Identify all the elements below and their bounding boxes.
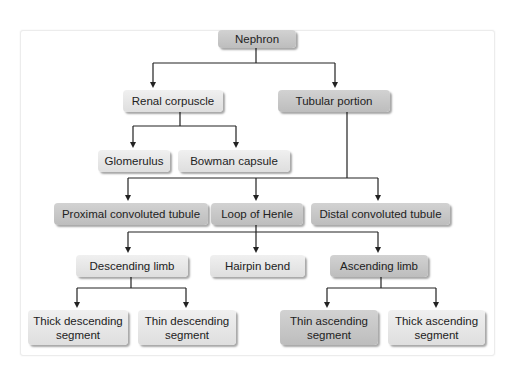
node-label: Proximal convoluted tubule bbox=[62, 207, 200, 221]
node-label: Renal corpuscle bbox=[132, 94, 214, 108]
node-label: Bowman capsule bbox=[190, 154, 278, 168]
node-label: Thick ascending segment bbox=[392, 314, 481, 342]
node-thin-descending-segment: Thin descending segment bbox=[138, 310, 236, 345]
node-thin-ascending-segment: Thin ascending segment bbox=[280, 310, 378, 345]
node-renal-corpuscle: Renal corpuscle bbox=[123, 90, 223, 112]
node-loop-of-henle: Loop of Henle bbox=[211, 203, 303, 225]
node-label: Descending limb bbox=[89, 259, 174, 273]
node-proximal-convoluted-tubule: Proximal convoluted tubule bbox=[54, 203, 208, 225]
node-label: Tubular portion bbox=[296, 94, 373, 108]
node-label: Thin ascending segment bbox=[284, 314, 374, 342]
node-thick-ascending-segment: Thick ascending segment bbox=[388, 310, 485, 345]
node-label: Glomerulus bbox=[105, 154, 164, 168]
node-label: Hairpin bend bbox=[225, 259, 290, 273]
node-label: Distal convoluted tubule bbox=[319, 207, 441, 221]
node-glomerulus: Glomerulus bbox=[98, 150, 170, 172]
node-label: Loop of Henle bbox=[221, 207, 293, 221]
node-descending-limb: Descending limb bbox=[76, 255, 188, 277]
node-nephron: Nephron bbox=[218, 30, 296, 48]
node-label: Thin descending segment bbox=[142, 314, 232, 342]
node-thick-descending-segment: Thick descending segment bbox=[28, 310, 128, 345]
node-tubular-portion: Tubular portion bbox=[278, 90, 390, 112]
node-label: Ascending limb bbox=[340, 259, 418, 273]
node-label: Thick descending segment bbox=[32, 314, 124, 342]
node-hairpin-bend: Hairpin bend bbox=[210, 255, 305, 277]
node-bowman-capsule: Bowman capsule bbox=[178, 150, 290, 172]
node-distal-convoluted-tubule: Distal convoluted tubule bbox=[311, 203, 450, 225]
node-ascending-limb: Ascending limb bbox=[330, 255, 428, 277]
node-label: Nephron bbox=[235, 32, 279, 46]
